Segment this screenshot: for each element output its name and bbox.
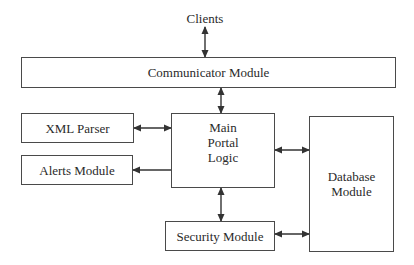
main-portal-line-1: Main	[207, 120, 238, 135]
database-module-box: Database Module	[309, 116, 394, 252]
security-module-box: Security Module	[165, 221, 275, 251]
main-portal-logic-box: Main Portal Logic	[171, 113, 275, 188]
database-module-line-2: Module	[328, 184, 376, 199]
communicator-module-label: Communicator Module	[148, 65, 270, 80]
security-module-label: Security Module	[176, 229, 263, 244]
xml-parser-label: XML Parser	[45, 121, 109, 136]
alerts-module-label: Alerts Module	[39, 163, 114, 178]
main-portal-line-3: Logic	[207, 150, 238, 165]
communicator-module-box: Communicator Module	[21, 57, 396, 88]
database-module-line-1: Database	[328, 169, 376, 184]
alerts-module-box: Alerts Module	[21, 155, 133, 185]
clients-label: Clients	[180, 11, 230, 27]
main-portal-line-2: Portal	[207, 135, 238, 150]
xml-parser-box: XML Parser	[21, 113, 134, 143]
